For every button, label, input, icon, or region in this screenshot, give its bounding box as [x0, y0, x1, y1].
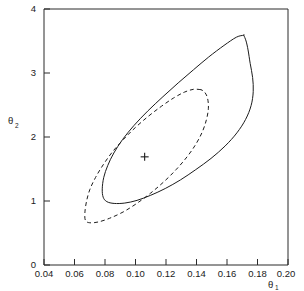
- x-tick-label-5: 0.14: [187, 268, 206, 279]
- y-tick-label-4: 4: [31, 3, 36, 14]
- dashed-confidence-contour: [85, 89, 209, 223]
- x-axis-title-symbol: θ: [268, 279, 273, 290]
- y-tick-label-0: 0: [31, 259, 36, 270]
- y-axis-ticks: [44, 9, 50, 265]
- x-tick-label-8: 0.20: [277, 268, 296, 279]
- solid-confidence-contour: [102, 35, 253, 204]
- y-axis-title-symbol: θ: [8, 115, 13, 126]
- y-tick-label-2: 2: [31, 131, 36, 142]
- x-tick-labels: 0.04 0.06 0.08 0.10 0.12 0.14 0.16 0.18 …: [35, 268, 296, 279]
- y-tick-labels: 0 1 2 3 4: [31, 3, 36, 270]
- y-axis-title-subscript: 2: [15, 122, 19, 129]
- x-tick-label-3: 0.10: [126, 268, 145, 279]
- x-tick-label-2: 0.08: [96, 268, 115, 279]
- frame-border: [44, 9, 288, 265]
- plot-frame: [44, 9, 288, 265]
- y-tick-label-1: 1: [31, 195, 36, 206]
- x-tick-label-4: 0.12: [157, 268, 176, 279]
- x-tick-label-0: 0.04: [35, 268, 54, 279]
- x-axis-title: θ 1: [268, 279, 279, 291]
- x-tick-label-6: 0.16: [218, 268, 237, 279]
- data-curves: [85, 35, 254, 223]
- x-axis-title-subscript: 1: [275, 284, 279, 291]
- confidence-region-plot: 0.04 0.06 0.08 0.10 0.12 0.14 0.16 0.18 …: [0, 0, 304, 291]
- x-tick-label-1: 0.06: [65, 268, 84, 279]
- x-tick-label-7: 0.18: [248, 268, 267, 279]
- point-estimate-cross: [141, 153, 149, 161]
- y-axis-title: θ 2: [8, 115, 19, 129]
- y-tick-label-3: 3: [31, 67, 36, 78]
- x-axis-ticks: [44, 259, 288, 265]
- chart-figure: 0.04 0.06 0.08 0.10 0.12 0.14 0.16 0.18 …: [0, 0, 304, 291]
